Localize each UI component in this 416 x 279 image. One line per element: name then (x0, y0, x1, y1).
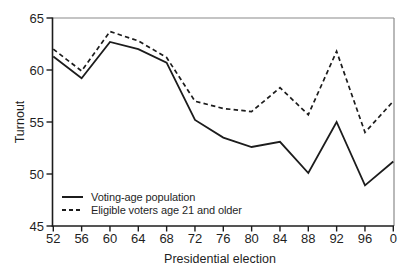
x-tick-label: 96 (358, 231, 372, 246)
x-tick-label: 56 (74, 231, 88, 246)
legend-label-voting-age-population: Voting-age population (91, 191, 195, 203)
x-tick-label: 92 (329, 231, 343, 246)
y-tick-label: 55 (30, 115, 44, 130)
legend-item-voting-age-population: Voting-age population (62, 191, 242, 203)
x-tick-label: 88 (301, 231, 315, 246)
series-line-dashed (53, 32, 393, 133)
x-tick-label: 68 (159, 231, 173, 246)
y-tick-label: 60 (30, 63, 44, 78)
chart-legend: Voting-age population Eligible voters ag… (62, 191, 242, 216)
x-tick-label: 52 (46, 231, 60, 246)
y-tick-label: 50 (30, 167, 44, 182)
legend-dashed-line-sample (62, 209, 83, 211)
voter-turnout-line-chart: 45505560655256606468727680848892960 Turn… (0, 0, 416, 279)
legend-solid-line-sample (62, 196, 83, 198)
series-line-solid (53, 42, 393, 186)
x-tick-label: 84 (273, 231, 287, 246)
x-tick-label: 72 (188, 231, 202, 246)
y-axis-title: Turnout (13, 101, 27, 144)
y-tick-label: 45 (30, 219, 44, 234)
x-tick-label: 80 (244, 231, 258, 246)
x-tick-label: 64 (131, 231, 145, 246)
x-tick-label: 0 (390, 231, 397, 246)
x-axis-title: Presidential election (164, 252, 276, 266)
legend-item-eligible-voters: Eligible voters age 21 and older (62, 204, 242, 216)
x-tick-label: 60 (103, 231, 117, 246)
y-tick-label: 65 (30, 11, 44, 26)
x-tick-label: 76 (216, 231, 230, 246)
legend-label-eligible-voters: Eligible voters age 21 and older (91, 204, 242, 216)
chart-canvas: 45505560655256606468727680848892960 (0, 0, 416, 279)
